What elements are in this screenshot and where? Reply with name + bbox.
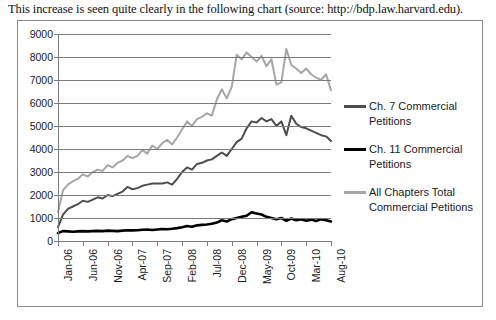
legend-item-label: Ch. 7 Commercial Petitions xyxy=(369,99,484,129)
y-axis-tick-label: 7000 xyxy=(30,74,53,86)
y-tick-mark xyxy=(54,34,58,35)
x-axis-tick-label: Feb-08 xyxy=(186,249,198,282)
x-tick-mark xyxy=(306,241,307,246)
x-tick-mark xyxy=(257,241,258,246)
y-tick-mark xyxy=(54,126,58,127)
y-axis-tick-label: 8000 xyxy=(30,51,53,63)
gridline xyxy=(58,103,331,104)
y-axis-line xyxy=(58,34,59,241)
legend-swatch-icon xyxy=(344,191,366,194)
legend-swatch-icon xyxy=(344,148,366,151)
gridline xyxy=(58,195,331,196)
y-tick-mark xyxy=(54,172,58,173)
x-axis-tick-label: Jul-08 xyxy=(211,249,223,278)
gridline xyxy=(58,218,331,219)
chart-legend: Ch. 7 Commercial PetitionsCh. 11 Commerc… xyxy=(344,99,484,228)
x-tick-mark xyxy=(331,241,332,246)
x-tick-mark xyxy=(281,241,282,246)
x-axis-tick-label: May-09 xyxy=(261,249,273,284)
x-axis-tick-label: Jun-06 xyxy=(87,249,99,281)
gridline xyxy=(58,57,331,58)
legend-swatch-icon xyxy=(344,105,366,108)
x-tick-mark xyxy=(58,241,59,246)
x-axis-tick-label: Nov-06 xyxy=(112,249,124,283)
x-tick-mark xyxy=(182,241,183,246)
legend-item[interactable]: All Chapters Total Commercial Petitions xyxy=(344,185,484,215)
x-tick-mark xyxy=(132,241,133,246)
y-tick-mark xyxy=(54,195,58,196)
y-axis-tick-label: 2000 xyxy=(30,189,53,201)
y-axis-tick-label: 0 xyxy=(47,235,53,247)
gridline xyxy=(58,126,331,127)
y-axis-tick-label: 5000 xyxy=(30,120,53,132)
y-tick-mark xyxy=(54,149,58,150)
gridline xyxy=(58,241,331,242)
gridline xyxy=(58,80,331,81)
series-lines xyxy=(58,34,331,241)
y-axis-tick-label: 4000 xyxy=(30,143,53,155)
plot-area: 0100020003000400050006000700080009000 Ja… xyxy=(58,34,331,241)
series-line xyxy=(58,212,331,233)
x-axis-tick-label: Dec-08 xyxy=(236,249,248,283)
y-axis-tick-label: 1000 xyxy=(30,212,53,224)
x-axis-tick-label: Oct-09 xyxy=(285,249,297,281)
y-axis-tick-label: 3000 xyxy=(30,166,53,178)
y-tick-mark xyxy=(54,218,58,219)
x-axis-tick-label: Aug-10 xyxy=(335,249,347,283)
legend-item[interactable]: Ch. 7 Commercial Petitions xyxy=(344,99,484,129)
x-tick-mark xyxy=(108,241,109,246)
legend-item[interactable]: Ch. 11 Commercial Petitions xyxy=(344,142,484,172)
x-axis-tick-label: Jan-06 xyxy=(62,249,74,281)
y-tick-mark xyxy=(54,103,58,104)
x-axis-tick-label: Mar-10 xyxy=(310,249,322,282)
y-axis-tick-label: 9000 xyxy=(30,28,53,40)
gridline xyxy=(58,149,331,150)
series-line xyxy=(58,49,331,212)
chart-container: 0100020003000400050006000700080009000 Ja… xyxy=(17,20,483,307)
y-tick-mark xyxy=(54,57,58,58)
y-axis-tick-label: 6000 xyxy=(30,97,53,109)
x-tick-mark xyxy=(207,241,208,246)
x-tick-mark xyxy=(232,241,233,246)
gridline xyxy=(58,34,331,35)
x-axis-tick-label: Sep-07 xyxy=(161,249,173,283)
x-tick-mark xyxy=(83,241,84,246)
gridline xyxy=(58,172,331,173)
x-axis-tick-label: Apr-07 xyxy=(136,249,148,281)
y-tick-mark xyxy=(54,80,58,81)
legend-item-label: All Chapters Total Commercial Petitions xyxy=(369,185,484,215)
x-tick-mark xyxy=(157,241,158,246)
legend-item-label: Ch. 11 Commercial Petitions xyxy=(369,142,484,172)
page-caption: This increase is seen quite clearly in t… xyxy=(8,2,492,17)
